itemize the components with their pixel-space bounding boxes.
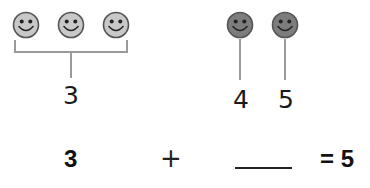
counting-diagram: [0, 0, 370, 188]
group-bracket: [15, 40, 127, 78]
count-label: 4: [233, 87, 249, 112]
smiley-face-icon: [228, 13, 253, 38]
smiley-face-icon: [273, 13, 298, 38]
smiley-face-icon: [14, 13, 39, 38]
plus-sign: +: [160, 145, 182, 171]
smiley-face-icon: [59, 13, 84, 38]
equation-result: = 5: [320, 147, 354, 171]
answer-blank[interactable]: [235, 167, 292, 169]
count-label: 5: [278, 87, 294, 112]
equation-addend: 3: [64, 147, 77, 171]
group-total-label: 3: [63, 83, 79, 108]
smiley-face-icon: [104, 13, 129, 38]
